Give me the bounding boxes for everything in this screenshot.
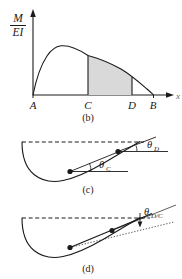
moment-area-figure: M EI x A C D B (b) — [0, 0, 182, 279]
node-point-d-d-panel — [109, 228, 114, 233]
caption-b: (b) — [82, 112, 94, 124]
vertical-axis-b — [30, 9, 36, 95]
angle-arc-d — [136, 146, 137, 152]
angle-label-theta-d-over-c: θ D/C — [144, 206, 163, 220]
point-label-c: C — [84, 99, 92, 111]
axis-label-denominator: EI — [12, 26, 25, 38]
x-axis-label: x — [175, 91, 180, 101]
node-point-c — [67, 169, 72, 174]
caption-d: (d) — [82, 263, 94, 275]
theta-d-symbol: θ — [147, 139, 152, 150]
angle-label-theta-c: θ C — [99, 159, 111, 173]
panel-c: θ C θ D (c) — [22, 137, 168, 196]
node-point-c-d-panel — [67, 245, 72, 250]
caption-c: (c) — [82, 184, 93, 196]
axis-label-numerator: M — [12, 12, 24, 24]
point-label-a: A — [29, 99, 37, 111]
panel-d: θ D/C (d) — [22, 205, 176, 275]
theta-c-subscript: C — [106, 165, 111, 173]
theta-d-subscript: D — [153, 145, 159, 153]
node-point-d — [115, 149, 120, 154]
elastic-curve-c — [22, 142, 140, 182]
angle-label-theta-d: θ D — [147, 139, 159, 153]
theta-dc-subscript: D/C — [150, 212, 163, 220]
point-label-b: B — [150, 99, 157, 111]
point-label-d: D — [127, 99, 136, 111]
theta-c-symbol: θ — [99, 159, 104, 170]
axis-label-mei: M EI — [10, 12, 26, 38]
theta-dc-symbol: θ — [144, 206, 149, 217]
elastic-curve-d — [22, 218, 140, 258]
shaded-area-cd — [88, 56, 132, 96]
panel-b: M EI x A C D B (b) — [10, 9, 180, 124]
